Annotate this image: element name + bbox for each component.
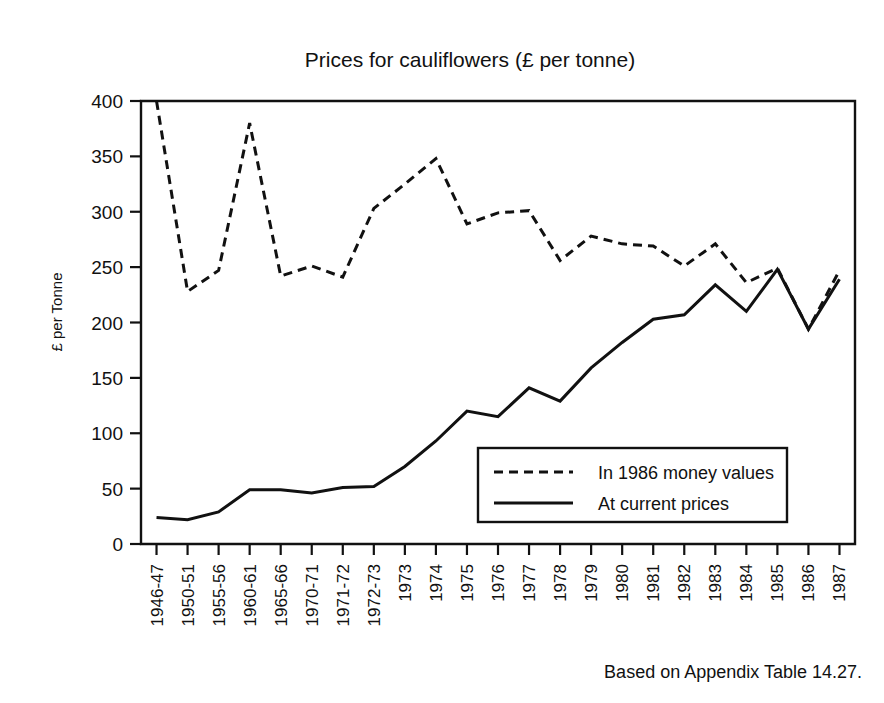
y-tick-label: 100 — [91, 423, 123, 444]
x-tick-label: 1976 — [489, 564, 508, 602]
x-tick-label: 1971-72 — [334, 564, 353, 626]
x-tick-label: 1984 — [737, 564, 756, 602]
x-tick-label: 1970-71 — [303, 564, 322, 626]
x-tick-label: 1975 — [458, 564, 477, 602]
x-tick-label: 1978 — [551, 564, 570, 602]
chart-legend: In 1986 money values At current prices — [478, 448, 787, 522]
x-tick-label: 1974 — [427, 564, 446, 602]
x-tick-label: 1981 — [644, 564, 663, 602]
y-tick-label: 350 — [91, 146, 123, 167]
y-axis-title: £ per Tonne — [48, 273, 65, 352]
x-tick-label: 1972-73 — [365, 564, 384, 626]
source-note: Based on Appendix Table 14.27. — [604, 662, 862, 682]
cauliflower-price-chart: Prices for cauliflowers (£ per tonne) 05… — [0, 0, 884, 703]
x-tick-label: 1977 — [520, 564, 539, 602]
x-tick-label: 1987 — [830, 564, 849, 602]
legend-label-in-1986-money-values: In 1986 money values — [598, 463, 774, 483]
x-tick-label: 1965-66 — [272, 564, 291, 626]
y-tick-label: 150 — [91, 368, 123, 389]
x-tick-label: 1985 — [768, 564, 787, 602]
x-tick-label: 1946-47 — [148, 564, 167, 626]
x-tick-label: 1955-56 — [210, 564, 229, 626]
x-tick-label: 1983 — [706, 564, 725, 602]
y-tick-label: 250 — [91, 257, 123, 278]
x-tick-label: 1960-61 — [241, 564, 260, 626]
x-tick-label: 1973 — [396, 564, 415, 602]
legend-label-at-current-prices: At current prices — [598, 494, 729, 514]
x-tick-label: 1950-51 — [179, 564, 198, 626]
y-tick-label: 0 — [112, 534, 123, 555]
y-tick-label: 200 — [91, 313, 123, 334]
x-tick-label: 1982 — [675, 564, 694, 602]
y-tick-label: 50 — [102, 479, 123, 500]
x-tick-label: 1980 — [613, 564, 632, 602]
x-tick-label: 1986 — [799, 564, 818, 602]
y-tick-label: 400 — [91, 91, 123, 112]
page-title: Prices for cauliflowers (£ per tonne) — [305, 48, 635, 71]
x-tick-label: 1979 — [582, 564, 601, 602]
y-tick-label: 300 — [91, 202, 123, 223]
